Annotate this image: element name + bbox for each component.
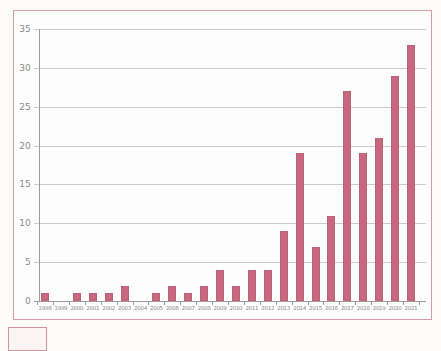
bar — [89, 293, 97, 301]
x-tick-label: 1999 — [52, 305, 69, 312]
x-tick-label: 2002 — [100, 305, 117, 312]
y-tick-label: 35 — [14, 24, 31, 35]
x-tick-label: 2013 — [275, 305, 292, 312]
x-tick-label: 2019 — [371, 305, 388, 312]
bar — [200, 286, 208, 302]
y-tick-label: 5 — [14, 257, 31, 268]
gridline — [34, 29, 426, 30]
bar — [359, 153, 367, 301]
bar — [407, 45, 415, 302]
x-tick-label: 2007 — [180, 305, 197, 312]
x-tick-label: 2004 — [132, 305, 149, 312]
chart-frame: 0510152025303519981999200020012002200320… — [13, 10, 432, 320]
bar — [248, 270, 256, 301]
gridline — [34, 107, 426, 108]
x-tick-label: 2015 — [307, 305, 324, 312]
bar — [152, 293, 160, 301]
bar — [296, 153, 304, 301]
bar — [327, 216, 335, 302]
y-tick-label: 0 — [14, 296, 31, 307]
bar — [168, 286, 176, 302]
gridline — [34, 223, 426, 224]
bar — [312, 247, 320, 301]
y-tick-label: 30 — [14, 63, 31, 74]
x-tick-label: 2008 — [196, 305, 213, 312]
bar — [232, 286, 240, 302]
y-tick-label: 15 — [14, 179, 31, 190]
y-axis-line — [39, 29, 40, 301]
gridline — [34, 262, 426, 263]
gridline — [34, 146, 426, 147]
partial-figure-box — [8, 327, 47, 351]
gridline — [34, 68, 426, 69]
x-tick-label: 2016 — [323, 305, 340, 312]
gridline — [34, 184, 426, 185]
x-tick-label: 2009 — [212, 305, 229, 312]
x-tick-label: 2006 — [164, 305, 181, 312]
x-tick-label: 2001 — [84, 305, 101, 312]
y-tick-label: 20 — [14, 141, 31, 152]
x-tick-label: 2017 — [339, 305, 356, 312]
x-tick-label: 2005 — [148, 305, 165, 312]
x-tick-label: 1998 — [37, 305, 54, 312]
x-tick-label: 2011 — [243, 305, 260, 312]
bar — [343, 91, 351, 301]
y-tick-label: 10 — [14, 218, 31, 229]
bar — [280, 231, 288, 301]
bar — [105, 293, 113, 301]
x-tick-label: 2020 — [387, 305, 404, 312]
x-tick-label: 2003 — [116, 305, 133, 312]
bar — [41, 293, 49, 301]
x-axis-line — [34, 301, 426, 302]
bar — [73, 293, 81, 301]
x-tick-label: 2012 — [259, 305, 276, 312]
x-tick-label: 2014 — [291, 305, 308, 312]
bar — [216, 270, 224, 301]
x-tick-label: 2018 — [355, 305, 372, 312]
bar — [391, 76, 399, 301]
x-tick-label: 2010 — [227, 305, 244, 312]
bar — [121, 286, 129, 302]
bar — [375, 138, 383, 301]
bar — [184, 293, 192, 301]
bar — [264, 270, 272, 301]
x-tick-label: 2021 — [402, 305, 419, 312]
y-tick-label: 25 — [14, 102, 31, 113]
plot-area: 0510152025303519981999200020012002200320… — [14, 11, 431, 319]
x-tick-label: 2000 — [68, 305, 85, 312]
